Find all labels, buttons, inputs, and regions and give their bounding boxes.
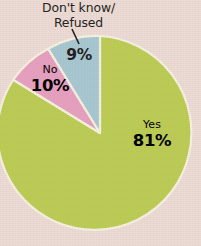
slice-label-dont-know-line1: Don't know/ [26, 1, 131, 16]
slice-label-yes: Yes [118, 118, 186, 131]
slice-label-no: No [21, 63, 79, 76]
slice-label-group-yes: Yes 81% [118, 118, 186, 150]
pie-chart-figure: Don't know/ Refused 9% No 10% Yes 81% [0, 0, 201, 246]
slice-label-dont-know: Don't know/ Refused [26, 1, 131, 30]
slice-label-group-no: No 10% [21, 63, 79, 95]
slice-value-no: 10% [21, 76, 79, 95]
slice-value-yes: 81% [118, 131, 186, 150]
slice-label-dont-know-line2: Refused [26, 16, 131, 31]
slice-value-dont-know: 9% [56, 47, 102, 64]
